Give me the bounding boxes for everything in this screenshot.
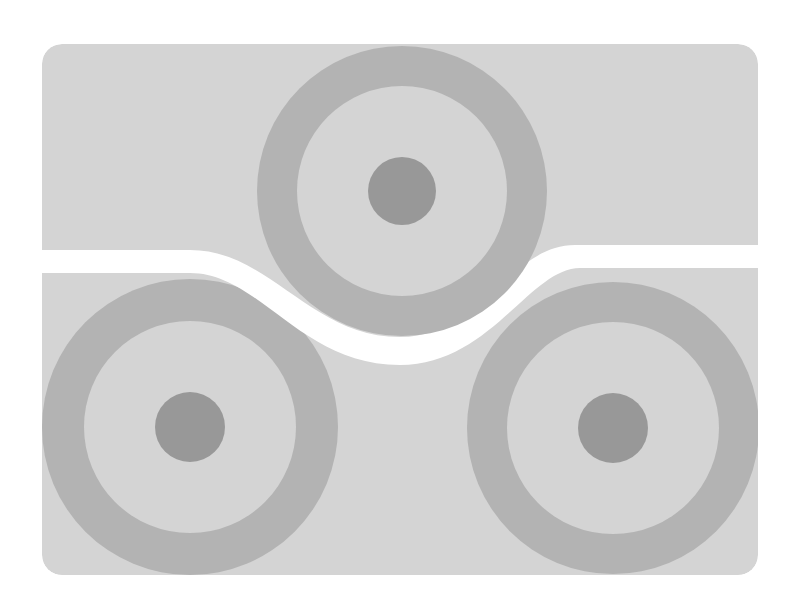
target-center-dot: [578, 393, 648, 463]
emblem-canvas: [0, 0, 799, 611]
target-bottom-right: [467, 282, 759, 574]
card-group: [30, 44, 775, 575]
target-top: [257, 46, 547, 336]
target-center-dot: [368, 157, 436, 225]
target-center-dot: [155, 392, 225, 462]
